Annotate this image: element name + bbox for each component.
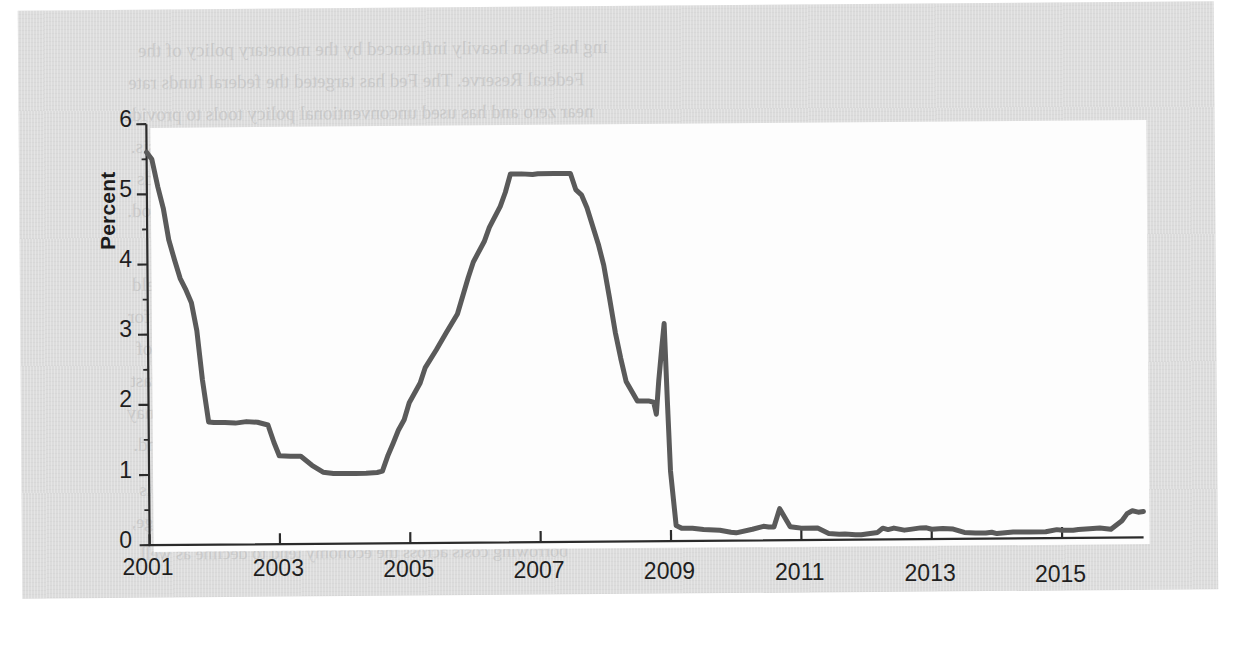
y-axis-tick-label: 0 [102, 527, 132, 554]
x-axis-tick-label: 2003 [233, 555, 323, 582]
data-series-line [147, 144, 1144, 540]
chart-canvas: Percent 0123456 200120032005200720092011… [0, 0, 1234, 646]
x-axis-tick-label: 2009 [624, 558, 714, 585]
plot-group [136, 116, 1143, 545]
line-chart-svg [0, 0, 1234, 646]
y-axis-tick-label: 5 [102, 176, 132, 203]
y-axis-tick-label: 1 [102, 457, 132, 484]
x-axis-tick-label: 2013 [885, 560, 975, 587]
axis-lines [146, 116, 1143, 545]
x-axis-tick-label: 2011 [755, 559, 845, 586]
y-axis-tick-label: 3 [102, 316, 132, 343]
y-axis-tick-label: 2 [102, 386, 132, 413]
y-axis-tick-label: 6 [102, 106, 132, 133]
x-axis-tick-label: 2001 [103, 554, 193, 581]
x-axis-tick-label: 2005 [364, 556, 454, 583]
x-axis-tick-label: 2007 [494, 557, 584, 584]
figure-root: ing has been heavily influenced by the m… [0, 0, 1234, 646]
y-axis-tick-label: 4 [102, 246, 132, 273]
x-axis-tick-label: 2015 [1016, 561, 1106, 588]
